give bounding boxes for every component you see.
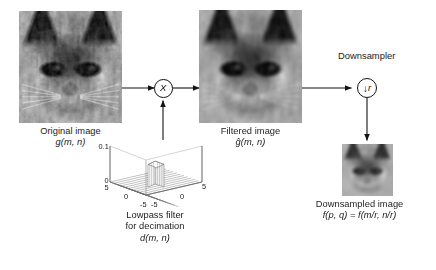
ytick-label-pos: -5 <box>140 200 147 209</box>
downsampled-image <box>342 144 393 196</box>
xtick-label-neg: -5 <box>151 200 158 209</box>
filtered-caption-line1: Filtered image <box>190 126 311 137</box>
filtered-image-caption: Filtered image ĝ(m, n) <box>190 126 311 149</box>
ytick-label-mid: 0 <box>124 192 128 201</box>
diagram-canvas: Original image g(m, n) X <box>0 0 436 270</box>
downsample-icon: ↓r <box>363 83 371 93</box>
downsampler-node: ↓r <box>357 78 377 98</box>
ztick-label-max: 0.1 <box>99 142 109 151</box>
multiply-icon: X <box>160 83 166 93</box>
filtered-caption-line2: ĝ(m, n) <box>190 137 311 148</box>
filtered-image <box>199 10 302 123</box>
downsampler-label: Downsampler <box>338 50 395 61</box>
multiplier-node: X <box>154 79 173 98</box>
downsampled-image-caption: Downsampled image f(p, q) = f(m/r, n/r) <box>283 199 436 222</box>
filter-caption: Lowpass filter for decimation d(m, n) <box>96 210 214 244</box>
filter-caption-line1: Lowpass filter <box>96 210 214 221</box>
downsample-rate: r <box>368 83 371 92</box>
downsampled-caption-line2: f(p, q) = f(m/r, n/r) <box>283 210 436 221</box>
down-arrow-icon: ↓ <box>363 84 368 94</box>
xtick-label-mid: 0 <box>180 192 184 201</box>
filter-caption-line3: d(m, n) <box>96 233 214 244</box>
original-image <box>19 11 122 123</box>
ytick-label-neg: 5 <box>105 183 109 192</box>
filter-caption-line2: for decimation <box>96 221 214 232</box>
xtick-label-pos: 5 <box>202 182 206 191</box>
downsampled-caption-line1: Downsampled image <box>283 199 436 210</box>
